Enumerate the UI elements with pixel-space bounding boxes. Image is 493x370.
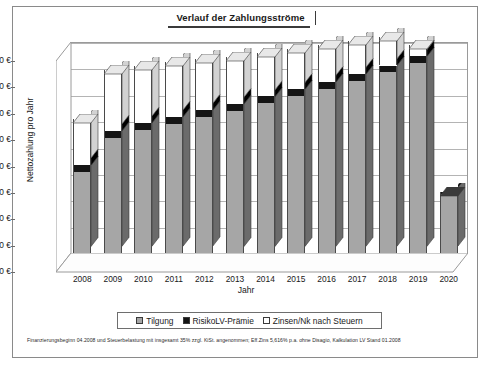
bar-depth-face	[152, 57, 160, 244]
bar-top-face	[440, 183, 466, 201]
bar-depth-face	[122, 61, 130, 244]
footnote: Finanzierungsbeginn 04.2008 und Steuerbe…	[27, 337, 467, 343]
x-axis-tick-label-2016: 2016	[311, 274, 342, 284]
bar-segment-risikolv-pr-mie	[73, 165, 91, 172]
bar-segment-risikolv-pr-mie	[257, 96, 275, 103]
bar-top-face	[165, 53, 191, 71]
y-axis-tick-label: 16 000 €	[0, 55, 11, 65]
bar-2019	[409, 45, 427, 253]
x-axis-tick-label-2008: 2008	[67, 274, 98, 284]
legend-item-zinsen-nk-nach-steuern[interactable]: Zinsen/Nk nach Steuern	[263, 316, 363, 326]
chart-title-block: Verlauf der Zahlungsströme	[168, 11, 318, 33]
y-axis-tick-mark	[11, 193, 15, 194]
y-axis-tick-mark	[11, 167, 15, 168]
bar-depth-face	[213, 50, 221, 244]
bar-segment-tilgung	[195, 117, 213, 253]
legend-item-tilgung[interactable]: Tilgung	[136, 316, 173, 326]
bar-top-face	[226, 48, 252, 66]
bar-depth-face	[397, 28, 405, 244]
x-axis-ticks: 2008200920102011201220132014201520162017…	[56, 274, 468, 290]
y-axis-tick-label: 6000 €	[0, 187, 11, 197]
legend-label: RisikoLV-Prämie	[193, 316, 254, 326]
bar-segment-tilgung	[287, 96, 305, 253]
y-axis-ticks: 0 €2000 €4000 €6000 €8000 €10 000 €12 00…	[0, 42, 11, 272]
bar-segment-tilgung	[226, 111, 244, 253]
bar-segment-risikolv-pr-mie	[226, 104, 244, 111]
x-axis-tick-label-2012: 2012	[189, 274, 220, 284]
x-axis-tick-label-2010: 2010	[128, 274, 159, 284]
plot-area	[56, 42, 468, 272]
legend-item-risikolv-pr-mie[interactable]: RisikoLV-Prämie	[183, 316, 254, 326]
chart-container: Verlauf der Zahlungsströme Nettozahlung …	[12, 6, 478, 358]
x-axis-tick-label-2015: 2015	[281, 274, 312, 284]
bar-segment-tilgung	[134, 130, 152, 253]
bar-top-face	[104, 61, 130, 79]
bar-depth-face	[275, 44, 283, 244]
bar-2018	[379, 37, 397, 253]
legend-label: Tilgung	[146, 316, 173, 326]
y-axis-tick-mark	[11, 272, 15, 273]
bar-segment-tilgung	[440, 194, 458, 253]
bar-top-face	[73, 110, 99, 128]
bar-top-face	[257, 44, 283, 62]
y-axis-tick-label: 10 000 €	[0, 134, 11, 144]
x-axis-tick-label-2019: 2019	[403, 274, 434, 284]
y-axis-tick-label: 2000 €	[0, 240, 11, 250]
bar-top-face	[409, 36, 435, 54]
y-axis-tick-mark	[11, 246, 15, 247]
bar-segment-tilgung	[379, 72, 397, 253]
bar-top-face	[318, 36, 344, 54]
bar-depth-face	[305, 40, 313, 244]
bar-depth-face	[427, 36, 435, 244]
bar-2008	[73, 119, 91, 254]
bar-depth-face	[183, 53, 191, 244]
bar-top-face	[195, 50, 221, 68]
x-axis-tick-label-2014: 2014	[250, 274, 281, 284]
bar-2016	[318, 45, 336, 253]
x-axis-tick-label-2009: 2009	[98, 274, 129, 284]
bar-2009	[104, 70, 122, 253]
x-axis-tick-label-2020: 2020	[433, 274, 464, 284]
bar-2011	[165, 62, 183, 253]
bar-segment-risikolv-pr-mie	[318, 82, 336, 89]
y-axis-tick-mark	[11, 219, 15, 220]
title-underline	[168, 26, 310, 28]
bar-2012	[195, 59, 213, 253]
bar-depth-face	[244, 48, 252, 244]
y-axis-tick-label: 8000 €	[0, 161, 11, 171]
legend-swatch-icon	[183, 317, 190, 324]
bar-2015	[287, 49, 305, 253]
bar-segment-tilgung	[257, 103, 275, 253]
bar-segment-risikolv-pr-mie	[104, 131, 122, 138]
bar-2010	[134, 66, 152, 253]
chart-legend: TilgungRisikoLV-PrämieZinsen/Nk nach Ste…	[117, 312, 382, 329]
bar-top-face	[287, 40, 313, 58]
bar-depth-face	[91, 110, 99, 245]
bar-2014	[257, 53, 275, 253]
y-axis-tick-label: 0 €	[0, 266, 11, 276]
bar-top-face	[134, 57, 160, 75]
bar-segment-tilgung	[409, 63, 427, 253]
bar-segment-tilgung	[165, 124, 183, 253]
bar-2013	[226, 57, 244, 253]
legend-swatch-icon	[263, 317, 270, 324]
x-axis-tick-label-2013: 2013	[220, 274, 251, 284]
y-axis-tick-mark	[11, 87, 15, 88]
y-axis-tick-mark	[11, 114, 15, 115]
bar-top-face	[379, 28, 405, 46]
y-axis-tick-mark	[11, 140, 15, 141]
bar-segment-risikolv-pr-mie	[287, 89, 305, 96]
bar-top-face	[348, 32, 374, 50]
legend-swatch-icon	[136, 317, 143, 324]
bar-segment-tilgung	[73, 172, 91, 253]
bar-depth-face	[366, 32, 374, 244]
x-axis-tick-label-2018: 2018	[372, 274, 403, 284]
bar-depth-face	[336, 36, 344, 244]
legend-label: Zinsen/Nk nach Steuern	[273, 316, 363, 326]
bar-segment-zinsen-nk-nach-steuern	[104, 70, 122, 131]
x-axis-tick-label-2017: 2017	[342, 274, 373, 284]
y-axis-tick-label: 12 000 €	[0, 108, 11, 118]
bar-segment-tilgung	[348, 81, 366, 253]
x-axis-tick-label-2011: 2011	[159, 274, 190, 284]
page-title: Verlauf der Zahlungsströme	[168, 11, 316, 25]
